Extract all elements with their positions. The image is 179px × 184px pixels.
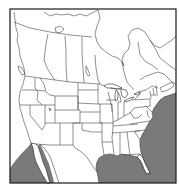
range-map [0,0,179,184]
lake-michigan [115,90,118,101]
map-content [10,9,176,183]
